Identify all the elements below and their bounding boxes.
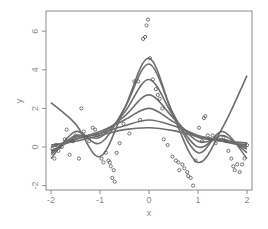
fit-curve bbox=[51, 95, 247, 153]
plot-frame bbox=[46, 11, 252, 190]
y-tick-label: 6 bbox=[30, 29, 40, 34]
x-axis-title: x bbox=[147, 208, 152, 218]
data-point bbox=[156, 93, 159, 96]
data-point bbox=[53, 157, 56, 160]
x-tick-label: -2 bbox=[47, 195, 55, 205]
data-point bbox=[236, 163, 239, 166]
data-point bbox=[146, 18, 149, 21]
data-point bbox=[211, 134, 214, 137]
data-point bbox=[177, 161, 180, 164]
y-tick-label: -2 bbox=[30, 182, 40, 190]
data-point bbox=[206, 134, 209, 137]
data-point bbox=[128, 132, 131, 135]
y-tick-label: 4 bbox=[30, 67, 40, 72]
data-point bbox=[112, 169, 115, 172]
x-tick-label: 1 bbox=[195, 195, 200, 205]
scatter-plot: -20246 -2-1012 x y bbox=[0, 0, 268, 229]
data-point bbox=[80, 107, 83, 110]
data-point bbox=[230, 157, 233, 160]
data-point bbox=[158, 97, 161, 100]
data-point bbox=[171, 155, 174, 158]
data-point bbox=[77, 157, 80, 160]
data-point bbox=[142, 37, 145, 40]
data-point bbox=[82, 130, 85, 133]
data-point bbox=[186, 170, 189, 173]
y-tick-label: 0 bbox=[30, 144, 40, 149]
data-point bbox=[161, 107, 164, 110]
x-tick-label: 0 bbox=[146, 195, 151, 205]
x-tick-label: 2 bbox=[244, 195, 249, 205]
y-axis: -20246 bbox=[30, 29, 46, 190]
data-point bbox=[241, 163, 244, 166]
data-point bbox=[111, 176, 114, 179]
data-point bbox=[154, 88, 157, 91]
fit-curve bbox=[51, 64, 247, 159]
fitted-curves bbox=[51, 58, 247, 162]
data-point bbox=[113, 180, 116, 183]
data-point bbox=[178, 169, 181, 172]
data-point bbox=[189, 176, 192, 179]
data-point bbox=[166, 143, 169, 146]
data-point bbox=[102, 161, 105, 164]
data-point bbox=[94, 128, 97, 131]
y-tick-label: 2 bbox=[30, 106, 40, 111]
fit-curve bbox=[51, 58, 247, 162]
data-point bbox=[197, 126, 200, 129]
data-point bbox=[232, 165, 235, 168]
data-point bbox=[118, 142, 121, 145]
x-tick-label: -1 bbox=[96, 195, 104, 205]
data-point bbox=[143, 35, 146, 38]
data-point bbox=[243, 157, 246, 160]
data-point bbox=[183, 167, 186, 170]
data-point bbox=[122, 122, 125, 125]
data-point bbox=[65, 128, 68, 131]
data-point bbox=[227, 149, 230, 152]
data-point bbox=[68, 153, 71, 156]
data-points bbox=[51, 18, 249, 187]
data-point bbox=[145, 24, 148, 27]
data-point bbox=[192, 184, 195, 187]
x-axis: -2-1012 bbox=[47, 190, 250, 205]
data-point bbox=[233, 169, 236, 172]
data-point bbox=[181, 163, 184, 166]
data-point bbox=[100, 157, 103, 160]
data-point bbox=[238, 170, 241, 173]
data-point bbox=[109, 165, 112, 168]
y-axis-title: y bbox=[14, 98, 24, 103]
data-point bbox=[162, 138, 165, 141]
data-point bbox=[115, 151, 118, 154]
